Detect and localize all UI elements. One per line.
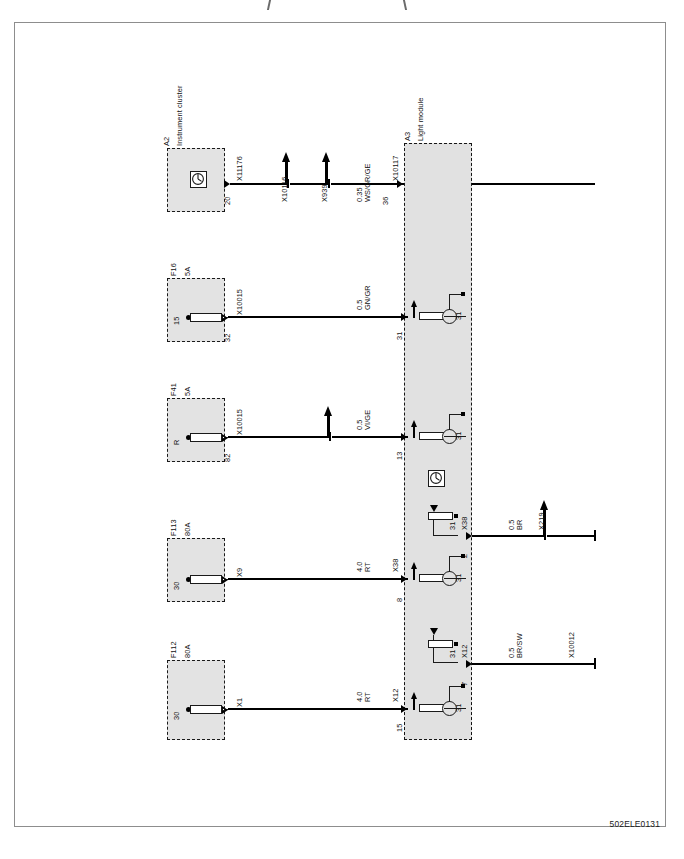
resistor-icon-2	[419, 432, 444, 440]
wire-w3-color: VI/GE	[364, 410, 371, 430]
resistor-dot-3	[454, 514, 458, 518]
transistor-base-lead-2	[449, 414, 450, 430]
branch-label-X10116: X10116	[281, 176, 288, 202]
fuse-icon-F113	[190, 575, 222, 584]
page-border	[14, 22, 666, 827]
wire-w7	[472, 663, 596, 665]
resistor-icon-5	[428, 640, 453, 648]
pin-label-32: 32	[224, 334, 231, 342]
fuse-icon-F16	[190, 313, 222, 322]
pin-label-36: 36	[382, 197, 389, 205]
connector-notch-F41-out	[401, 433, 407, 441]
component-box-F113	[167, 538, 225, 602]
component-rating-F16: 5A	[184, 267, 191, 276]
connector-notch-F112-out	[401, 705, 407, 713]
component-id-F112: F112	[170, 641, 177, 658]
component-name-A2: Instrument cluster	[176, 85, 183, 146]
resistor-icon-4	[419, 574, 444, 582]
connector-label-X11176: X11176	[236, 156, 243, 181]
ground-dot-4	[461, 684, 465, 688]
wire-w7-endbar	[594, 658, 596, 669]
component-rating-F41: 5A	[184, 387, 191, 396]
pin-label-8: 8	[396, 598, 403, 602]
pin-label-13: 13	[396, 452, 403, 460]
wire-w6-color: BR	[516, 520, 523, 530]
ground-dot-2	[461, 412, 465, 416]
wire-w3	[228, 436, 408, 438]
connector-label-X12-b: X12	[461, 645, 468, 658]
module-input-arrow-2	[430, 628, 438, 635]
component-id-F113: F113	[170, 519, 177, 536]
connector-label-F16: X10015	[236, 289, 243, 315]
component-id-F16: F16	[170, 263, 177, 276]
ground-label-31-b: 31	[455, 432, 462, 440]
ground-label-31-a: 31	[455, 312, 462, 320]
resistor-dot-5	[454, 642, 458, 646]
resistor-icon-3	[428, 512, 453, 520]
wire-w6-endbar	[594, 530, 596, 541]
fuse-icon-F112	[190, 705, 222, 714]
wire-w4-color: RT	[364, 562, 371, 572]
transistor-base-lead-3	[449, 556, 450, 572]
component-id-F41: F41	[170, 383, 177, 396]
pin-label-31-a: 31	[396, 332, 403, 340]
connector-notch-F16-out	[401, 313, 407, 321]
terminal-label-30-b: 30	[173, 712, 180, 720]
connector-label-X1: X1	[236, 698, 243, 707]
wire-w6	[472, 535, 596, 537]
component-rating-F112: 80A	[184, 645, 191, 658]
wire-w4	[228, 578, 408, 580]
resistor-icon-6	[419, 704, 444, 712]
wire-w2-color: GN/GR	[364, 285, 371, 310]
pin-label-15: 15	[396, 724, 403, 732]
component-id-A3: A3	[404, 132, 411, 141]
branch-label-X939: X939	[321, 184, 328, 202]
wire-w2	[228, 316, 408, 318]
module-lead-h-1	[433, 535, 458, 536]
component-box-F41	[167, 398, 225, 462]
figure-code: 502ELE0131	[610, 819, 660, 829]
component-name-A3: Light module	[417, 97, 424, 141]
component-box-F16	[167, 278, 225, 342]
ground-label-31-e: 31	[449, 650, 456, 658]
connector-label-F41: X10015	[236, 409, 243, 435]
connector-label-X9: X9	[236, 568, 243, 577]
connector-label-X10117: X10117	[392, 155, 399, 181]
connector-notch-X10117	[397, 180, 403, 188]
wire-w5	[228, 708, 408, 710]
component-box-F112	[167, 660, 225, 740]
wire-w5-color: RT	[364, 692, 371, 702]
ground-label-31-d: 31	[455, 574, 462, 582]
crop-mark-left	[267, 0, 280, 10]
gauge-icon-module	[428, 470, 445, 487]
terminal-label-R: R	[173, 440, 180, 445]
ground-dot-1	[461, 292, 465, 296]
gauge-icon	[190, 171, 207, 188]
connector-label-X12: X12	[392, 689, 399, 702]
wire-w1-color: WS/GR/GE	[364, 163, 371, 202]
resistor-icon-1	[419, 312, 444, 320]
transistor-base-lead-1	[449, 294, 450, 310]
ground-dot-3	[461, 554, 465, 558]
ground-label-31-c: 31	[449, 522, 456, 530]
diagram-page: A2 Instrument cluster X11176 20 X10116 X…	[0, 0, 684, 859]
pin-label-20: 20	[224, 197, 231, 205]
module-input-arrow-1	[430, 505, 438, 512]
wire-w7-color: BR/SW	[516, 633, 523, 658]
crop-mark-right	[403, 0, 416, 10]
branch-label-X219: X219	[538, 512, 545, 530]
module-lead-h-2	[433, 662, 458, 663]
fuse-icon-F41	[190, 433, 222, 442]
terminal-label-15: 15	[173, 317, 180, 325]
component-rating-F113: 80A	[184, 523, 191, 536]
component-id-A2: A2	[163, 137, 170, 146]
connector-label-X10012: X10012	[568, 632, 575, 658]
ground-label-31-f: 31	[455, 704, 462, 712]
connector-label-X38-b: X38	[461, 517, 468, 530]
pin-label-82: 82	[224, 454, 231, 462]
connector-label-X38: X38	[392, 559, 399, 572]
connector-notch-F113-out	[401, 575, 407, 583]
terminal-label-30-a: 30	[173, 582, 180, 590]
transistor-base-lead-4	[449, 686, 450, 702]
